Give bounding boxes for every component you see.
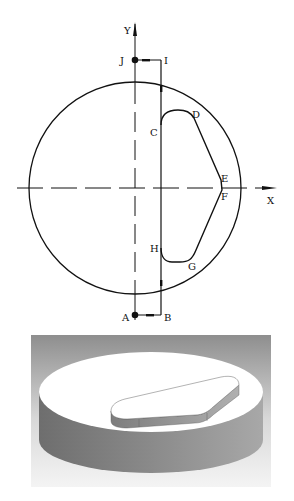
label-D: D <box>192 109 200 120</box>
label-H: H <box>150 243 159 254</box>
x-axis-label: X <box>267 195 275 206</box>
boss-contour <box>161 110 222 262</box>
start-point-dot <box>132 312 139 319</box>
label-I: I <box>164 55 168 66</box>
x-axis: X <box>17 186 277 206</box>
y-axis: Y <box>123 22 137 320</box>
label-G: G <box>188 261 196 272</box>
path-direction-arrow-icon <box>142 59 150 61</box>
label-J: J <box>119 55 124 66</box>
label-B: B <box>164 312 171 322</box>
path-direction-arrow-icon <box>146 314 154 316</box>
label-E: E <box>221 173 228 184</box>
path-direction-arrow-icon <box>160 280 162 286</box>
y-axis-label: Y <box>123 25 131 36</box>
toolpath-plan-diagram: X Y J I C D E F G H A B <box>0 0 294 322</box>
x-axis-arrow-icon <box>262 186 277 190</box>
end-point-dot <box>132 57 139 64</box>
label-A: A <box>121 312 130 322</box>
label-C: C <box>150 127 158 138</box>
y-axis-arrow-icon <box>133 22 137 36</box>
path-direction-arrow-icon <box>160 86 162 92</box>
label-F: F <box>221 191 228 202</box>
isometric-part-render <box>31 335 271 487</box>
